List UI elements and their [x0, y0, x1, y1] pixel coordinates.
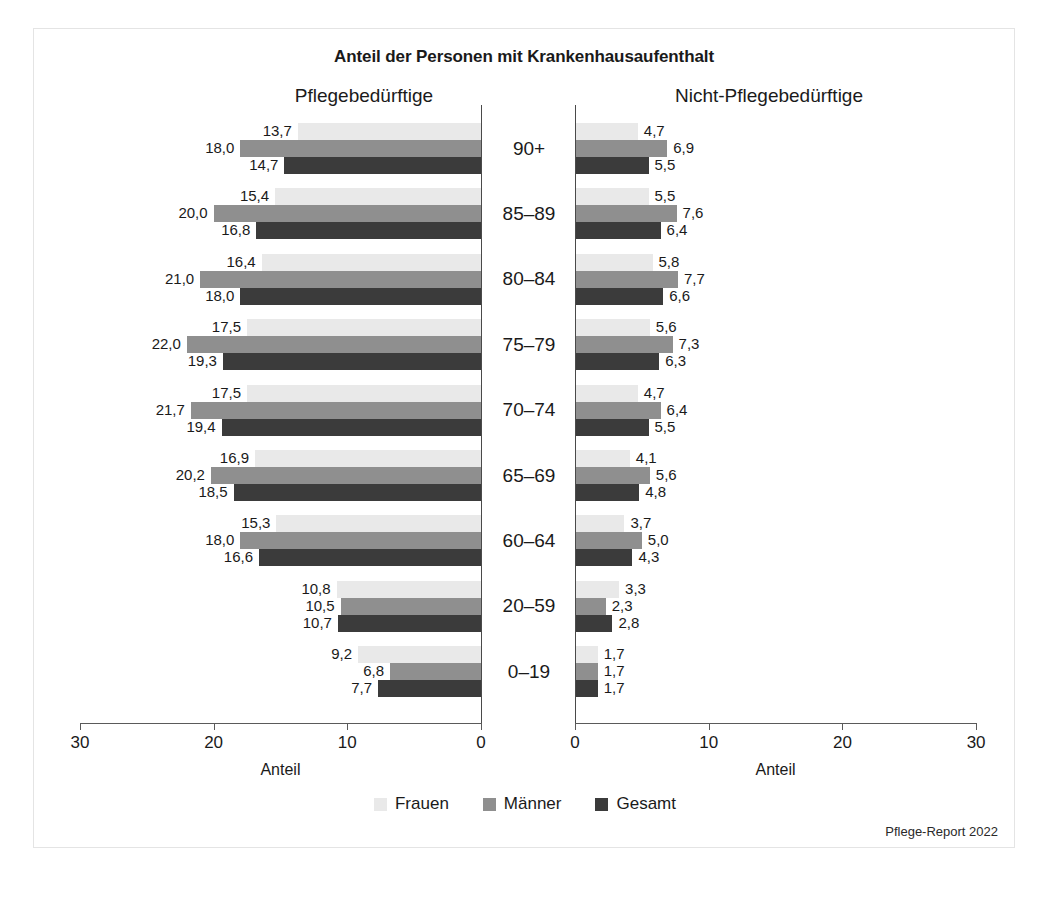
- x-axis-tick-label-right: 30: [956, 733, 996, 753]
- value-label-nicht-pflegebeduerftige-maenner: 2,3: [612, 597, 668, 614]
- bar-pflegebeduerftige-gesamt: [223, 353, 481, 370]
- bar-pflegebeduerftige-frauen: [247, 385, 481, 402]
- age-group-label: 75–79: [481, 335, 577, 354]
- value-label-pflegebeduerftige-gesamt: 18,5: [172, 483, 228, 500]
- value-label-pflegebeduerftige-frauen: 16,9: [193, 449, 249, 466]
- value-label-pflegebeduerftige-frauen: 15,4: [213, 187, 269, 204]
- value-label-nicht-pflegebeduerftige-frauen: 5,8: [659, 253, 715, 270]
- bar-pflegebeduerftige-gesamt: [240, 288, 481, 305]
- value-label-pflegebeduerftige-frauen: 13,7: [236, 122, 292, 139]
- value-label-nicht-pflegebeduerftige-frauen: 3,7: [630, 514, 686, 531]
- value-label-nicht-pflegebeduerftige-frauen: 4,7: [644, 122, 700, 139]
- value-label-pflegebeduerftige-gesamt: 10,7: [276, 614, 332, 631]
- value-label-pflegebeduerftige-frauen: 15,3: [214, 514, 270, 531]
- bar-pflegebeduerftige-maenner: [341, 598, 481, 615]
- bar-nicht-pflegebeduerftige-frauen: [575, 581, 619, 598]
- value-label-nicht-pflegebeduerftige-maenner: 7,7: [684, 270, 740, 287]
- bar-nicht-pflegebeduerftige-gesamt: [575, 615, 612, 632]
- bar-nicht-pflegebeduerftige-gesamt: [575, 419, 649, 436]
- bar-pflegebeduerftige-frauen: [247, 319, 481, 336]
- legend-item-gesamt: Gesamt: [595, 794, 676, 814]
- x-axis-tick-label-right: 20: [822, 733, 862, 753]
- value-label-nicht-pflegebeduerftige-frauen: 1,7: [604, 645, 660, 662]
- age-group-label: 85–89: [481, 204, 577, 223]
- value-label-pflegebeduerftige-maenner: 21,0: [138, 270, 194, 287]
- legend-swatch-gesamt: [595, 798, 608, 811]
- bar-nicht-pflegebeduerftige-frauen: [575, 450, 630, 467]
- value-label-nicht-pflegebeduerftige-gesamt: 1,7: [604, 679, 660, 696]
- x-axis-tick-label-left: 30: [60, 733, 100, 753]
- value-label-nicht-pflegebeduerftige-maenner: 6,9: [673, 139, 729, 156]
- bar-nicht-pflegebeduerftige-maenner: [575, 467, 650, 484]
- x-axis-tick-label-left: 20: [194, 733, 234, 753]
- value-label-pflegebeduerftige-frauen: 9,2: [296, 645, 352, 662]
- bar-nicht-pflegebeduerftige-frauen: [575, 646, 598, 663]
- bar-pflegebeduerftige-gesamt: [338, 615, 481, 632]
- bar-nicht-pflegebeduerftige-frauen: [575, 319, 650, 336]
- x-axis-line-right: [575, 723, 976, 724]
- x-axis-tick-left: [80, 723, 81, 730]
- bar-nicht-pflegebeduerftige-maenner: [575, 402, 661, 419]
- value-label-nicht-pflegebeduerftige-frauen: 4,7: [644, 384, 700, 401]
- value-label-pflegebeduerftige-maenner: 18,0: [178, 139, 234, 156]
- bar-pflegebeduerftige-maenner: [200, 271, 481, 288]
- bar-nicht-pflegebeduerftige-frauen: [575, 515, 624, 532]
- axis-vline-left: [481, 105, 482, 723]
- legend-label-gesamt: Gesamt: [616, 794, 676, 814]
- value-label-pflegebeduerftige-gesamt: 19,3: [161, 352, 217, 369]
- x-axis-line-left: [80, 723, 481, 724]
- axis-vline-right: [575, 105, 576, 723]
- bar-pflegebeduerftige-maenner: [390, 663, 481, 680]
- x-axis-title-left: Anteil: [220, 761, 340, 779]
- x-axis-tick-label-right: 10: [689, 733, 729, 753]
- bar-pflegebeduerftige-maenner: [240, 140, 481, 157]
- value-label-nicht-pflegebeduerftige-maenner: 1,7: [604, 662, 660, 679]
- value-label-nicht-pflegebeduerftige-maenner: 7,3: [679, 335, 735, 352]
- bar-pflegebeduerftige-frauen: [337, 581, 481, 598]
- age-group-label: 60–64: [481, 531, 577, 550]
- value-label-nicht-pflegebeduerftige-frauen: 4,1: [636, 449, 692, 466]
- age-group-label: 90+: [481, 139, 577, 158]
- bar-pflegebeduerftige-frauen: [358, 646, 481, 663]
- value-label-nicht-pflegebeduerftige-maenner: 7,6: [683, 204, 739, 221]
- legend-item-maenner: Männer: [483, 794, 562, 814]
- value-label-pflegebeduerftige-maenner: 22,0: [125, 335, 181, 352]
- bar-nicht-pflegebeduerftige-gesamt: [575, 549, 632, 566]
- bar-nicht-pflegebeduerftige-maenner: [575, 598, 606, 615]
- bar-pflegebeduerftige-gesamt: [378, 680, 481, 697]
- value-label-pflegebeduerftige-maenner: 20,0: [152, 204, 208, 221]
- bar-nicht-pflegebeduerftige-gesamt: [575, 353, 659, 370]
- x-axis-tick-right: [575, 723, 576, 730]
- value-label-pflegebeduerftige-gesamt: 16,6: [197, 548, 253, 565]
- bar-nicht-pflegebeduerftige-maenner: [575, 532, 642, 549]
- bar-pflegebeduerftige-frauen: [276, 515, 481, 532]
- x-axis-tick-left: [347, 723, 348, 730]
- bar-pflegebeduerftige-gesamt: [259, 549, 481, 566]
- value-label-pflegebeduerftige-frauen: 17,5: [185, 384, 241, 401]
- bar-pflegebeduerftige-maenner: [214, 205, 481, 222]
- value-label-nicht-pflegebeduerftige-frauen: 5,5: [655, 187, 711, 204]
- bar-nicht-pflegebeduerftige-gesamt: [575, 288, 663, 305]
- value-label-nicht-pflegebeduerftige-gesamt: 6,4: [667, 221, 723, 238]
- bar-nicht-pflegebeduerftige-gesamt: [575, 680, 598, 697]
- legend-item-frauen: Frauen: [374, 794, 449, 814]
- x-axis-tick-label-left: 10: [327, 733, 367, 753]
- bar-nicht-pflegebeduerftige-frauen: [575, 123, 638, 140]
- bar-pflegebeduerftige-gesamt: [284, 157, 481, 174]
- value-label-nicht-pflegebeduerftige-gesamt: 6,6: [669, 287, 725, 304]
- age-group-label: 0–19: [481, 662, 577, 681]
- bar-pflegebeduerftige-maenner: [191, 402, 481, 419]
- value-label-nicht-pflegebeduerftige-maenner: 5,6: [656, 466, 712, 483]
- value-label-nicht-pflegebeduerftige-gesamt: 2,8: [618, 614, 674, 631]
- bar-nicht-pflegebeduerftige-gesamt: [575, 484, 639, 501]
- value-label-pflegebeduerftige-gesamt: 7,7: [316, 679, 372, 696]
- value-label-nicht-pflegebeduerftige-gesamt: 5,5: [655, 156, 711, 173]
- value-label-pflegebeduerftige-frauen: 10,8: [275, 580, 331, 597]
- value-label-pflegebeduerftige-maenner: 18,0: [178, 531, 234, 548]
- value-label-pflegebeduerftige-gesamt: 14,7: [222, 156, 278, 173]
- bar-pflegebeduerftige-gesamt: [256, 222, 481, 239]
- age-group-label: 70–74: [481, 400, 577, 419]
- bar-pflegebeduerftige-gesamt: [222, 419, 481, 436]
- bar-nicht-pflegebeduerftige-gesamt: [575, 222, 661, 239]
- value-label-nicht-pflegebeduerftige-gesamt: 4,3: [638, 548, 694, 565]
